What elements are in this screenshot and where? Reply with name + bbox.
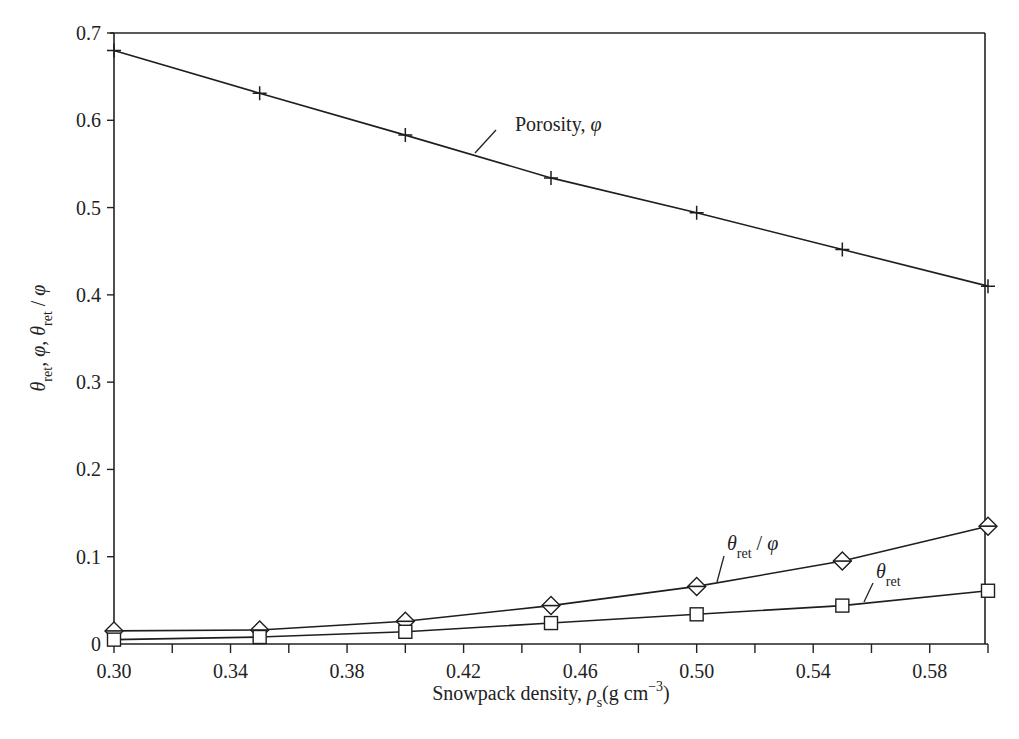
square-marker-icon [253, 631, 266, 644]
plus-marker-icon [835, 242, 849, 256]
annotation-porosity-label: Porosity, φ [515, 113, 601, 136]
plus-marker-icon [981, 279, 995, 293]
y-tick-label: 0.3 [76, 371, 101, 393]
x-tick-label: 0.46 [563, 660, 598, 682]
x-axis-title: Snowpack density, ρs(g cm−3) [432, 679, 670, 710]
plus-marker-icon [253, 86, 267, 100]
y-tick-label: 0.7 [76, 22, 101, 44]
square-marker-icon [108, 633, 121, 646]
x-tick-label: 0.30 [97, 660, 132, 682]
leader-line-theta-ret [864, 583, 873, 602]
leader-line-ratio [717, 556, 724, 582]
square-marker-icon [982, 584, 995, 597]
y-tick-label: 0.2 [76, 458, 101, 480]
series-line-plus [114, 50, 988, 286]
x-tick-label: 0.38 [330, 660, 365, 682]
square-marker-icon [399, 625, 412, 638]
chart: 0.300.340.380.420.460.500.540.58 00.10.2… [0, 0, 1019, 739]
y-tick-label: 0.6 [76, 109, 101, 131]
series-plus [107, 43, 995, 293]
x-axis-ticks: 0.300.340.380.420.460.500.540.58 [97, 644, 989, 682]
plus-marker-icon [690, 206, 704, 220]
plus-marker-icon [544, 171, 558, 185]
square-marker-icon [836, 599, 849, 612]
annotation-ratio-label: θret / φ [727, 532, 778, 561]
leader-line-porosity [475, 130, 496, 153]
plus-marker-icon [107, 43, 121, 57]
x-tick-label: 0.34 [213, 660, 248, 682]
annotation-porosity: Porosity, φ [475, 113, 601, 153]
square-marker-icon [690, 608, 703, 621]
x-tick-label: 0.50 [679, 660, 714, 682]
y-tick-label: 0.5 [76, 197, 101, 219]
y-tick-label: 0.1 [76, 546, 101, 568]
y-axis-ticks: 00.10.20.30.40.50.60.7 [76, 22, 114, 655]
y-tick-label: 0 [91, 633, 101, 655]
x-tick-label: 0.42 [446, 660, 481, 682]
y-axis-title: θret, φ, θret / φ [27, 285, 55, 392]
y-tick-label: 0.4 [76, 284, 101, 306]
annotation-theta-ret-label: θret [876, 560, 901, 589]
square-marker-icon [545, 617, 558, 630]
x-tick-label: 0.58 [912, 660, 947, 682]
x-tick-label: 0.54 [796, 660, 831, 682]
annotation-theta-ret: θret [864, 560, 901, 602]
plus-marker-icon [398, 128, 412, 142]
